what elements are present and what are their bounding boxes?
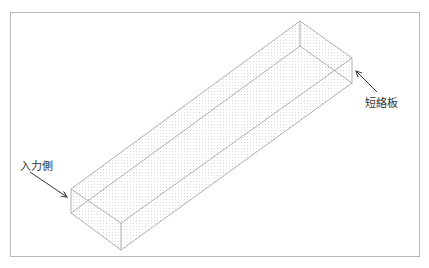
waveguide-box-diagram xyxy=(0,0,429,268)
input-side-arrow xyxy=(30,172,67,197)
mesh-fill xyxy=(71,21,352,250)
input-side-label: 入力側 xyxy=(20,157,53,173)
short-plate-label: 短絡板 xyxy=(365,94,398,110)
short-plate-arrow xyxy=(356,71,377,92)
